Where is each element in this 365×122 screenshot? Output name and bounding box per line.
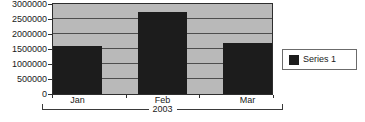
x-tick-mark — [52, 95, 53, 98]
y-tick-mark — [48, 64, 52, 65]
category-group-bracket: 2003 — [42, 104, 283, 110]
axis-group-label: 2003 — [148, 105, 176, 114]
x-tick-mark — [273, 95, 274, 98]
y-tick-label: 500000 — [0, 75, 47, 84]
bar-mar — [223, 43, 272, 94]
y-tick-label: 1000000 — [0, 60, 47, 69]
y-tick-label: 2500000 — [0, 15, 47, 24]
y-tick-mark — [48, 34, 52, 35]
y-tick-label: 0 — [0, 90, 47, 99]
x-tick-mark — [126, 95, 127, 98]
y-tick-mark — [48, 4, 52, 5]
bar-jan — [53, 46, 102, 94]
legend-marker-icon — [289, 55, 299, 65]
y-tick-mark — [48, 49, 52, 50]
y-tick-label: 3000000 — [0, 0, 47, 9]
legend-series-label: Series 1 — [303, 55, 336, 64]
y-tick-label: 2000000 — [0, 30, 47, 39]
legend: Series 1 — [282, 49, 357, 70]
y-tick-mark — [48, 79, 52, 80]
y-tick-label: 1500000 — [0, 45, 47, 54]
x-tick-mark — [199, 95, 200, 98]
plot-area — [52, 3, 273, 95]
bar-feb — [138, 12, 187, 94]
bar-chart: 0500000100000015000002000000250000030000… — [0, 0, 365, 122]
y-tick-mark — [48, 19, 52, 20]
